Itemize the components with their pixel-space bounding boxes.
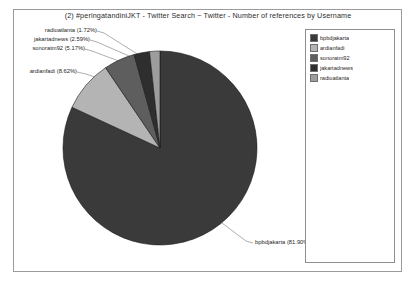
legend-swatch-icon [310,64,318,72]
legend-item-jakartadnews[interactable]: jakartadnews [310,63,394,73]
slice-label-sonoratm92: sonoratm92 (5.17%) [0,45,85,52]
legend-swatch-icon [310,34,318,42]
legend-item-ardianfadi[interactable]: ardianfadi [310,43,394,53]
chart-title: (2) #peringatandiniJKT - Twitter Search … [18,11,398,20]
legend-swatch-icon [310,44,318,52]
slice-label-ardianfadi: ardianfadi (8.62%) [0,68,77,75]
legend-item-label: jakartadnews [320,64,353,72]
slice-label-radioatlanta: radioatlanta (1.72%) [0,27,97,34]
legend-swatch-icon [310,54,318,62]
pie-slices [63,51,257,245]
legend-item-bpbdjakarta[interactable]: bpbdjakarta [310,33,394,43]
legend-list: bpbdjakartaardianfadisonoratm92jakartadn… [310,33,394,83]
legend-item-label: bpbdjakarta [320,34,349,42]
legend-item-label: radioatlanta [320,74,349,82]
legend-item-sonoratm92[interactable]: sonoratm92 [310,53,394,63]
legend-item-radioatlanta[interactable]: radioatlanta [310,73,394,83]
legend-item-label: ardianfadi [320,44,345,52]
legend: bpbdjakartaardianfadisonoratm92jakartadn… [305,29,395,263]
legend-swatch-icon [310,74,318,82]
legend-item-label: sonoratm92 [320,54,350,62]
slice-label-jakartadnews: jakartadnews (2.59%) [0,36,90,43]
pie-chart-figure: (2) #peringatandiniJKT - Twitter Search … [0,0,417,284]
pie-graphic [62,50,258,246]
